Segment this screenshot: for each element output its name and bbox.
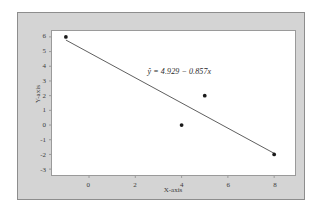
y-tick-label: 6 — [29, 32, 46, 39]
chart-page: 6543210-1-2-3 02468 ŷ = 4.929 − 0.857x X… — [0, 0, 322, 215]
data-point — [203, 94, 207, 98]
regression-equation-annotation: ŷ = 4.929 − 0.857x — [147, 67, 211, 76]
y-tick-label: 3 — [29, 77, 46, 84]
data-point-markers — [64, 35, 276, 156]
y-tick-label: -2 — [29, 152, 46, 159]
regression-line — [66, 40, 274, 153]
x-tick-label: 0 — [87, 182, 91, 189]
x-tick-label: 8 — [273, 182, 277, 189]
fitted-line — [66, 40, 274, 153]
y-axis-title: Y-axis — [34, 85, 42, 103]
y-tick-label: 5 — [29, 47, 46, 54]
tick-marks — [49, 37, 274, 178]
x-tick-label: 2 — [133, 182, 137, 189]
y-tick-label: 0 — [29, 122, 46, 129]
y-tick-label: -3 — [29, 167, 46, 174]
y-tick-label: 1 — [29, 107, 46, 114]
x-tick-label: 6 — [227, 182, 231, 189]
figure-panel: 6543210-1-2-3 02468 ŷ = 4.929 − 0.857x X… — [17, 12, 305, 200]
data-point — [272, 153, 276, 157]
data-point — [64, 35, 68, 39]
y-tick-label: 4 — [29, 62, 46, 69]
data-point — [180, 123, 184, 127]
x-axis-title: X-axis — [164, 186, 183, 194]
plot-area — [51, 30, 296, 176]
plot-canvas — [52, 31, 295, 175]
y-tick-label: -1 — [29, 137, 46, 144]
